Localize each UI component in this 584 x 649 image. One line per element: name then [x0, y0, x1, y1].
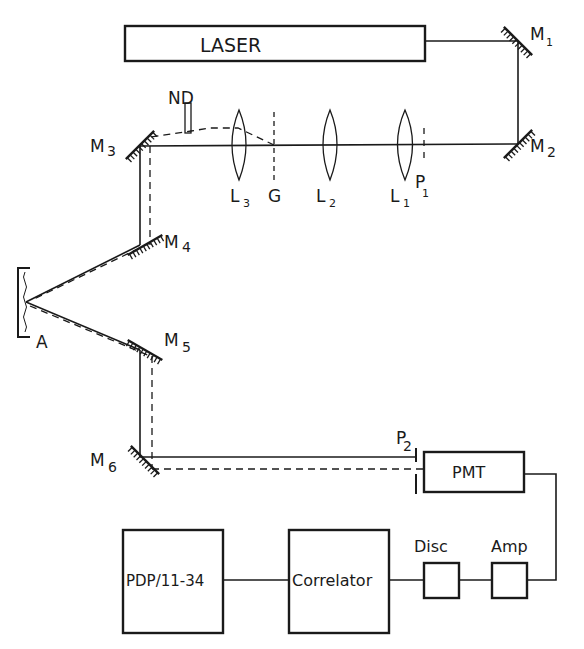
disc-box: [424, 563, 459, 598]
beam-m2-m3: [140, 144, 518, 146]
pmt-box: PMT: [424, 452, 524, 492]
label-m6: M: [90, 450, 105, 470]
label-m5: M: [164, 330, 179, 350]
computer-label: PDP/11-34: [126, 572, 204, 590]
label-g: G: [268, 186, 281, 206]
mirror-m1-icon: [500, 27, 533, 60]
label-l2: L: [316, 186, 326, 206]
beam-scattered-upper: [150, 128, 274, 145]
label-a: A: [36, 332, 48, 352]
label-m3: M: [90, 136, 105, 156]
label-p2-sub: 2: [403, 438, 412, 454]
label-m1-sub: 1: [546, 36, 553, 49]
label-m2: M: [530, 136, 545, 156]
amp-label: Amp: [491, 537, 528, 556]
label-l3: L: [230, 186, 240, 206]
label-m4-sub: 4: [182, 239, 191, 255]
mirror-m6-icon: [127, 446, 160, 479]
computer-box: PDP/11-34: [123, 530, 223, 633]
pmt-label: PMT: [452, 463, 485, 482]
mirror-m3-icon: [126, 131, 159, 164]
correlator-label: Correlator: [292, 571, 373, 590]
optical-diagram: LASER M 1 M 2 L 1 P 1 L 2 G L 3 ND M 3 M…: [0, 0, 584, 649]
label-m6-sub: 6: [108, 459, 117, 475]
beam-m4-sample: [26, 245, 140, 302]
disc-label: Disc: [414, 537, 448, 556]
label-m2-sub: 2: [547, 144, 556, 160]
label-m4: M: [164, 232, 179, 252]
label-l2-sub: 2: [329, 197, 336, 210]
label-m3-sub: 3: [107, 143, 116, 159]
correlator-box: Correlator: [289, 530, 389, 633]
label-p1-sub: 1: [422, 187, 429, 200]
beam-sample-m5-scattered: [30, 306, 150, 356]
amp-box: [492, 563, 527, 598]
label-l3-sub: 3: [243, 197, 250, 210]
laser-box: LASER: [125, 26, 425, 61]
laser-label: LASER: [200, 34, 261, 56]
wire-pmt-amp: [524, 474, 556, 580]
label-l1: L: [390, 186, 400, 206]
label-m5-sub: 5: [182, 339, 191, 355]
label-l1-sub: 1: [403, 197, 410, 210]
label-m1: M: [530, 24, 545, 44]
label-nd: ND: [168, 88, 194, 108]
